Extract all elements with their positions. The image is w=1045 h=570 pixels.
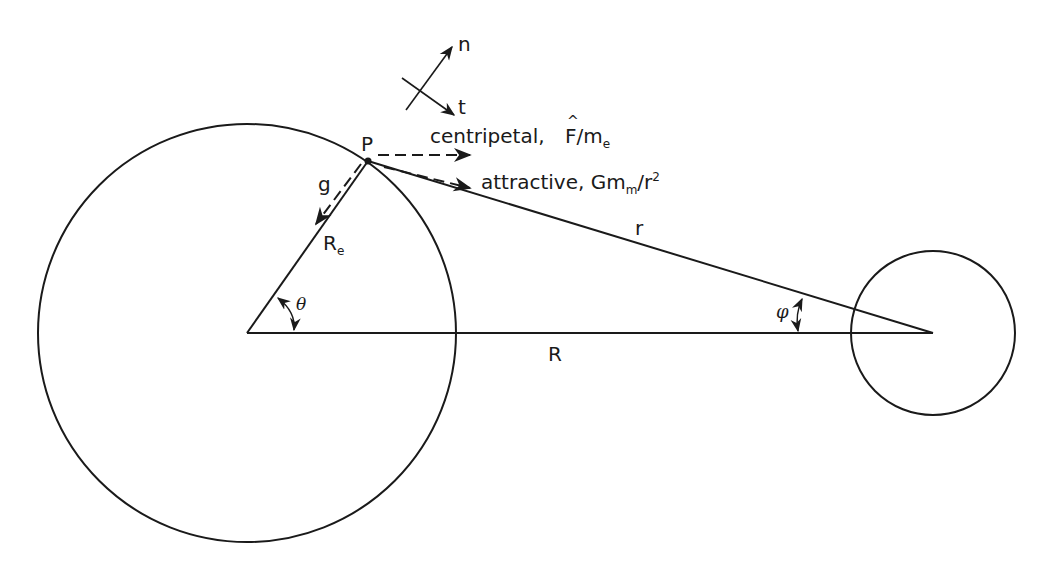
label-Re-sub: e	[337, 244, 344, 258]
tangent-vector-t	[402, 78, 454, 115]
centripetal-divisor: /m	[576, 124, 602, 148]
label-t: t	[458, 97, 466, 117]
earth-moon-tidal-diagram	[0, 0, 1045, 570]
label-g: g	[318, 174, 331, 194]
centripetal-text: centripetal,	[430, 124, 545, 148]
attractive-text: attractive,	[481, 170, 584, 194]
label-R: R	[548, 344, 562, 364]
centripetal-F-hat: F	[565, 126, 577, 146]
label-r: r	[635, 218, 643, 238]
line-Re	[247, 161, 368, 333]
point-P	[365, 158, 372, 165]
label-Re-main: R	[323, 231, 337, 255]
phi-arc	[797, 299, 802, 331]
attractive-Gm: Gm	[591, 170, 626, 194]
theta-arc	[278, 298, 294, 330]
label-phi: φ	[776, 303, 789, 321]
attractive-sup: 2	[652, 170, 660, 184]
attractive-divisor: /r	[637, 170, 652, 194]
label-attractive: attractive, Gmm/r2	[481, 172, 660, 192]
centripetal-sub: e	[603, 137, 610, 151]
normal-vector-n	[406, 47, 452, 110]
label-P: P	[361, 134, 373, 154]
label-Re: Re	[323, 233, 344, 253]
label-centripetal: centripetal, F/me	[430, 126, 610, 146]
attractive-sub: m	[626, 183, 638, 197]
label-n: n	[458, 34, 471, 54]
label-theta: θ	[296, 296, 306, 313]
